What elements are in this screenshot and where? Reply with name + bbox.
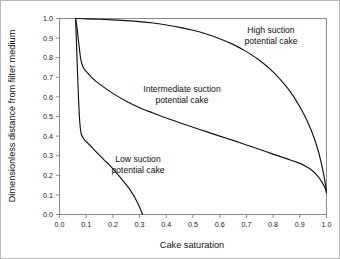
x-tick-label-0: 0.0	[55, 220, 65, 229]
y-tick-label-4: 0.4	[43, 132, 53, 141]
intermediate-suction-label: Intermediate suctionpotential cake	[143, 84, 221, 105]
y-tick-label-9: 0.9	[43, 34, 53, 43]
chart-figure: 0.00.10.20.30.40.50.60.70.80.91.0 0.00.1…	[0, 0, 340, 259]
x-axis-title: Cake saturation	[160, 240, 224, 250]
x-tick-label-8: 0.8	[268, 220, 278, 229]
y-tick-label-8: 0.8	[43, 53, 53, 62]
y-tick-label-0: 0.0	[43, 210, 53, 219]
high-suction-label: High suctionpotential cake	[244, 25, 297, 46]
plot-border	[60, 19, 327, 215]
y-tick-label-5: 0.5	[43, 112, 53, 121]
y-tick-label-10: 1.0	[43, 14, 53, 23]
x-tick-labels: 0.00.10.20.30.40.50.60.70.80.91.0	[55, 220, 332, 229]
y-tick-label-6: 0.6	[43, 93, 53, 102]
x-tick-label-1: 0.1	[81, 220, 91, 229]
x-tick-label-2: 0.2	[108, 220, 118, 229]
x-tick-label-3: 0.3	[135, 220, 145, 229]
plot-frame	[60, 19, 327, 215]
y-tick-label-3: 0.3	[43, 151, 53, 160]
y-tick-label-1: 0.1	[43, 191, 53, 200]
y-tick-label-2: 0.2	[43, 171, 53, 180]
y-tick-labels: 0.00.10.20.30.40.50.60.70.80.91.0	[43, 14, 53, 219]
y-axis-title: Dimensionless distance from filter mediu…	[7, 29, 17, 202]
x-tick-label-6: 0.6	[215, 220, 225, 229]
y-tick-label-7: 0.7	[43, 73, 53, 82]
curve-low-suction	[76, 19, 143, 215]
x-tick-label-7: 0.7	[241, 220, 251, 229]
x-tick-label-9: 0.9	[295, 220, 305, 229]
x-tick-label-10: 1.0	[322, 220, 332, 229]
plot-canvas: 0.00.10.20.30.40.50.60.70.80.91.0 0.00.1…	[1, 1, 340, 259]
x-tick-label-5: 0.5	[188, 220, 198, 229]
x-tick-label-4: 0.4	[161, 220, 171, 229]
low-suction-label: Low suctionpotential cake	[111, 154, 164, 175]
axis-ticks	[56, 19, 327, 219]
data-curves	[76, 19, 327, 215]
